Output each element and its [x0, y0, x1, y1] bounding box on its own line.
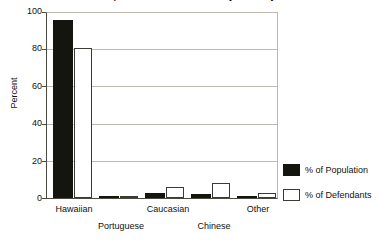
chart-title: Percent of Population and Defendants by … [40, 0, 290, 1]
y-tick-label-40: 40 [12, 119, 42, 128]
x-axis-label-caucasian: Caucasian [136, 204, 200, 214]
legend-item-population[interactable]: % of Population [283, 163, 378, 176]
y-axis-label: Percent [9, 58, 19, 128]
y-tick-label-20: 20 [12, 157, 42, 166]
x-axis-label-hawaiian: Hawaiian [44, 204, 104, 214]
legend-swatch-population-icon [283, 164, 300, 176]
y-tick-label-80: 80 [12, 44, 42, 53]
bar-hawaiian-population[interactable] [53, 20, 73, 198]
bar-group-hawaiian [51, 13, 95, 198]
bar-hawaiian-defendants[interactable] [74, 48, 92, 198]
plot-area [46, 12, 278, 199]
x-axis-label-portuguese: Portuguese [88, 221, 154, 231]
legend-label-population: % of Population [305, 165, 368, 175]
bar-other-population[interactable] [237, 196, 257, 198]
legend-label-defendants: % of Defendants [305, 190, 372, 200]
bar-group-portuguese [97, 13, 141, 198]
bar-chinese-population[interactable] [191, 194, 211, 198]
bar-group-chinese [189, 13, 233, 198]
bar-chinese-defendants[interactable] [212, 183, 230, 198]
bar-group-caucasian [143, 13, 187, 198]
bar-portuguese-population[interactable] [99, 196, 119, 198]
y-tick-label-60: 60 [12, 82, 42, 91]
legend-swatch-defendants-icon [283, 189, 300, 201]
bar-group-other [235, 13, 279, 198]
x-axis-label-chinese: Chinese [184, 221, 244, 231]
bar-chart-figure: Percent of Population and Defendants by … [0, 0, 378, 240]
bar-other-defendants[interactable] [258, 193, 276, 198]
chart-legend: % of Population % of Defendants [283, 163, 378, 213]
bar-caucasian-defendants[interactable] [166, 187, 184, 198]
bar-caucasian-population[interactable] [145, 193, 165, 198]
x-axis-label-other: Other [228, 204, 288, 214]
y-tick-label-0: 0 [12, 194, 42, 203]
legend-item-defendants[interactable]: % of Defendants [283, 188, 378, 201]
bar-portuguese-defendants[interactable] [120, 196, 138, 198]
y-tick-label-100: 100 [12, 7, 42, 16]
